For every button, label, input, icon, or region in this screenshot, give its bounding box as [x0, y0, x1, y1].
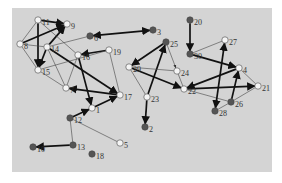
edge-3-6 — [93, 30, 150, 35]
node-label: 27 — [229, 38, 237, 47]
node-circle[interactable] — [117, 92, 123, 98]
node-circle[interactable] — [181, 86, 187, 92]
edge-14-15 — [39, 50, 46, 67]
node-13[interactable]: 13 — [70, 142, 85, 152]
node-label: 22 — [188, 87, 196, 96]
node-circle[interactable] — [150, 27, 156, 33]
node-label: 29 — [133, 65, 141, 74]
node-18[interactable]: 18 — [89, 151, 104, 161]
node-label: 23 — [151, 95, 159, 104]
node-circle[interactable] — [87, 33, 93, 39]
node-circle[interactable] — [44, 44, 50, 50]
node-circle[interactable] — [75, 52, 81, 58]
node-circle[interactable] — [35, 67, 41, 73]
node-label: 28 — [219, 109, 227, 118]
node-label: 25 — [170, 40, 178, 49]
node-28[interactable]: 28 — [212, 108, 227, 118]
node-label: 26 — [235, 100, 243, 109]
node-24[interactable]: 24 — [174, 68, 189, 78]
node-label: 2 — [149, 125, 153, 134]
node-30[interactable]: 30 — [187, 51, 202, 61]
node-6[interactable]: 6 — [87, 33, 98, 43]
node-label: 11 — [42, 18, 50, 27]
edge-28-27 — [215, 43, 224, 108]
node-circle[interactable] — [142, 124, 148, 130]
edge-16-1 — [79, 58, 91, 105]
node-label: 14 — [51, 45, 59, 54]
edge-12-13 — [70, 121, 72, 142]
node-1[interactable]: 1 — [89, 105, 100, 115]
node-circle[interactable] — [144, 94, 150, 100]
edge-26-21 — [234, 88, 255, 101]
node-circle[interactable] — [236, 65, 242, 71]
node-9[interactable]: 9 — [64, 21, 75, 31]
node-10[interactable]: 10 — [30, 144, 45, 154]
node-circle[interactable] — [126, 64, 132, 70]
node-circle[interactable] — [174, 68, 180, 74]
node-label: 17 — [124, 93, 132, 102]
node-circle[interactable] — [255, 83, 261, 89]
node-11[interactable]: 11 — [35, 17, 50, 27]
node-20[interactable]: 20 — [187, 17, 202, 27]
node-label: 6 — [94, 34, 98, 43]
node-circle[interactable] — [17, 41, 23, 47]
node-circle[interactable] — [212, 108, 218, 114]
node-16[interactable]: 16 — [75, 52, 90, 62]
edge-26-4 — [232, 71, 239, 99]
node-7[interactable]: 7 — [63, 85, 74, 95]
node-label: 24 — [181, 69, 189, 78]
node-circle[interactable] — [187, 51, 193, 57]
node-circle[interactable] — [64, 21, 70, 27]
node-circle[interactable] — [35, 17, 41, 23]
node-8[interactable]: 8 — [17, 41, 28, 51]
node-label: 9 — [71, 22, 75, 31]
node-circle[interactable] — [106, 47, 112, 53]
node-circle[interactable] — [117, 140, 123, 146]
node-circle[interactable] — [187, 17, 193, 23]
node-label: 19 — [113, 48, 121, 57]
node-label: 7 — [70, 86, 74, 95]
node-5[interactable]: 5 — [117, 140, 128, 150]
node-circle[interactable] — [89, 151, 95, 157]
edge-19-17 — [110, 53, 119, 92]
node-17[interactable]: 17 — [117, 92, 132, 102]
node-circle[interactable] — [30, 144, 36, 150]
node-label: 5 — [124, 141, 128, 150]
node-label: 8 — [24, 42, 28, 51]
node-label: 21 — [262, 84, 270, 93]
edge-layer — [22, 20, 256, 146]
node-circle[interactable] — [222, 37, 228, 43]
edge-4-22 — [187, 69, 236, 88]
node-label: 1 — [96, 106, 100, 115]
edge-17-7 — [69, 88, 117, 94]
node-19[interactable]: 19 — [106, 47, 121, 57]
node-label: 13 — [77, 143, 85, 152]
node-circle[interactable] — [228, 99, 234, 105]
node-label: 16 — [82, 53, 90, 62]
node-29[interactable]: 29 — [126, 64, 141, 74]
edge-22-21 — [187, 86, 255, 89]
node-15[interactable]: 15 — [35, 67, 50, 77]
node-label: 18 — [96, 152, 104, 161]
node-circle[interactable] — [70, 142, 76, 148]
edge-14-7 — [48, 50, 64, 85]
node-26[interactable]: 26 — [228, 99, 243, 109]
node-label: 15 — [42, 68, 50, 77]
node-14[interactable]: 14 — [44, 44, 59, 54]
node-label: 4 — [243, 66, 247, 75]
network-graph: 1234567891011121314151617181920212223242… — [0, 0, 282, 183]
node-circle[interactable] — [89, 105, 95, 111]
node-3[interactable]: 3 — [150, 27, 161, 37]
node-label: 3 — [157, 28, 161, 37]
node-label: 12 — [74, 116, 82, 125]
node-circle[interactable] — [163, 39, 169, 45]
node-label: 10 — [37, 145, 45, 154]
node-label: 20 — [194, 18, 202, 27]
node-22[interactable]: 22 — [181, 86, 196, 96]
node-21[interactable]: 21 — [255, 83, 270, 93]
node-circle[interactable] — [63, 85, 69, 91]
node-12[interactable]: 12 — [67, 115, 82, 125]
node-25[interactable]: 25 — [163, 39, 178, 49]
node-circle[interactable] — [67, 115, 73, 121]
node-2[interactable]: 2 — [142, 124, 153, 134]
